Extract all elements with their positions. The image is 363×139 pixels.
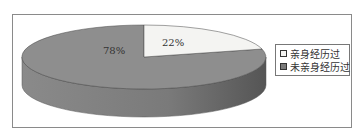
legend-label: 未亲身经历过 (290, 59, 350, 74)
slice-label-small: 22% (162, 37, 184, 48)
slice-label-large: 78% (103, 45, 125, 56)
legend: 亲身经历过 未亲身经历过 (275, 44, 350, 76)
legend-item-not-experienced: 未亲身经历过 (280, 60, 349, 73)
legend-swatch-dark (280, 63, 287, 70)
legend-swatch-light (280, 50, 287, 57)
